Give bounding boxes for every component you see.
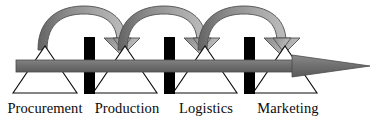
stage-label-procurement: Procurement — [7, 100, 82, 116]
stage-label-production: Production — [95, 100, 160, 116]
diagram-canvas: Procurement Production Logistics Marketi… — [0, 0, 379, 120]
main-arrow-head — [292, 55, 370, 77]
stage-label-marketing: Marketing — [257, 100, 318, 116]
process-flow-diagram: Procurement Production Logistics Marketi… — [0, 0, 379, 120]
stage-label-logistics: Logistics — [179, 100, 233, 116]
main-arrow-shaft — [16, 60, 299, 72]
stage-label-group: Procurement Production Logistics Marketi… — [7, 100, 318, 116]
